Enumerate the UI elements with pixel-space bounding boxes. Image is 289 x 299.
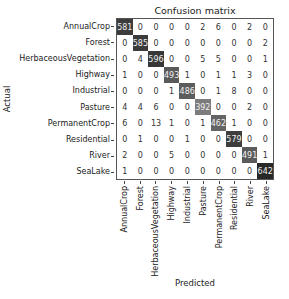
matrix-cell: 8	[226, 83, 242, 99]
matrix-cell: 1	[257, 51, 273, 67]
matrix-cell: 1	[117, 163, 133, 179]
matrix-cell: 0	[179, 99, 195, 115]
matrix-cell: 0	[226, 163, 242, 179]
matrix-cell: 0	[211, 131, 227, 147]
matrix-cell: 0	[257, 67, 273, 83]
matrix-cell: 4	[117, 99, 133, 115]
y-tick-label: Forest	[0, 34, 114, 50]
matrix-cell: 581	[117, 19, 133, 35]
matrix-cell: 6	[211, 19, 227, 35]
matrix-cell: 2	[117, 147, 133, 163]
matrix-cell: 491	[242, 147, 258, 163]
matrix-cell: 0	[195, 35, 211, 51]
matrix-cell: 0	[117, 83, 133, 99]
matrix-cell: 0	[179, 19, 195, 35]
matrix-cell: 0	[211, 163, 227, 179]
matrix-cell: 1	[195, 115, 211, 131]
matrix-cell: 0	[148, 147, 164, 163]
matrix-cell: 5	[164, 147, 180, 163]
x-tick-label: Forest	[132, 181, 148, 271]
x-tick-label: SeaLake	[258, 181, 274, 271]
matrix-cell: 596	[148, 51, 164, 67]
matrix-cell: 462	[211, 115, 227, 131]
x-tick-label: River	[242, 181, 258, 271]
matrix-cell: 0	[148, 19, 164, 35]
matrix-cell: 5	[211, 51, 227, 67]
matrix-cell: 0	[195, 83, 211, 99]
matrix-cell: 0	[242, 83, 258, 99]
matrix-cell: 0	[195, 163, 211, 179]
matrix-cell: 0	[195, 67, 211, 83]
matrix-cell: 0	[148, 131, 164, 147]
matrix-cell: 642	[257, 163, 273, 179]
y-tick-label: AnnualCrop	[0, 18, 114, 34]
matrix-cell: 0	[117, 51, 133, 67]
x-tick-label: AnnualCrop	[116, 181, 132, 271]
matrix-cell: 0	[179, 147, 195, 163]
matrix-cell: 0	[133, 19, 149, 35]
matrix-cell: 0	[164, 163, 180, 179]
matrix-cell: 0	[257, 19, 273, 35]
matrix-cell: 0	[179, 115, 195, 131]
matrix-cell: 1	[117, 67, 133, 83]
x-tick-label: PermanentCrop	[211, 181, 227, 271]
matrix-cell: 0	[133, 115, 149, 131]
matrix-cell: 486	[179, 83, 195, 99]
y-tick-label: River	[0, 148, 114, 164]
matrix-cell: 2	[257, 35, 273, 51]
matrix-cell: 2	[242, 99, 258, 115]
matrix-cell: 0	[257, 83, 273, 99]
matrix-cell: 0	[148, 35, 164, 51]
matrix-cell: 0	[179, 35, 195, 51]
matrix-cell: 0	[242, 131, 258, 147]
matrix-cell: 0	[133, 163, 149, 179]
matrix-cell: 1	[164, 83, 180, 99]
matrix-cell: 0	[257, 99, 273, 115]
matrix-cell: 0	[179, 51, 195, 67]
x-tick-label: HerbaceousVegetation	[148, 181, 164, 271]
matrix-cell: 585	[133, 35, 149, 51]
x-axis-label: Predicted	[116, 278, 274, 288]
matrix-cell: 0	[242, 163, 258, 179]
matrix-cell: 1	[226, 115, 242, 131]
confusion-matrix-grid: 5810000260200585000000020459600550011004…	[116, 18, 274, 180]
matrix-cell: 0	[164, 51, 180, 67]
matrix-cell: 0	[257, 131, 273, 147]
matrix-cell: 392	[195, 99, 211, 115]
y-tick-label: Highway	[0, 67, 114, 83]
matrix-cell: 0	[242, 35, 258, 51]
y-tick-label: Pasture	[0, 99, 114, 115]
matrix-cell: 1	[179, 131, 195, 147]
matrix-cell: 1	[179, 67, 195, 83]
matrix-cell: 0	[179, 163, 195, 179]
matrix-cell: 0	[117, 131, 133, 147]
matrix-cell: 1	[164, 115, 180, 131]
matrix-cell: 0	[211, 99, 227, 115]
matrix-cell: 579	[226, 131, 242, 147]
matrix-cell: 0	[226, 51, 242, 67]
x-tick-label: Industrial	[179, 181, 195, 271]
y-tick-label: Residential	[0, 131, 114, 147]
x-tick-label: Highway	[163, 181, 179, 271]
matrix-cell: 0	[164, 19, 180, 35]
matrix-cell: 1	[226, 67, 242, 83]
y-tick-label: Industrial	[0, 83, 114, 99]
matrix-cell: 4	[133, 51, 149, 67]
matrix-cell: 1	[211, 83, 227, 99]
y-tick-label: PermanentCrop	[0, 115, 114, 131]
matrix-cell: 0	[148, 163, 164, 179]
matrix-cell: 0	[211, 35, 227, 51]
y-tick-label: SeaLake	[0, 164, 114, 180]
y-axis-label: Actual	[2, 86, 12, 113]
matrix-cell: 1	[211, 67, 227, 83]
matrix-cell: 1	[257, 147, 273, 163]
matrix-cell: 0	[195, 131, 211, 147]
matrix-cell: 0	[242, 51, 258, 67]
matrix-cell: 0	[133, 67, 149, 83]
x-tick-label: Pasture	[195, 181, 211, 271]
y-tick-label: HerbaceousVegetation	[0, 50, 114, 66]
x-tick-labels: AnnualCropForestHerbaceousVegetationHigh…	[116, 181, 274, 271]
chart-title: Confusion matrix	[116, 5, 274, 16]
matrix-cell: 0	[117, 35, 133, 51]
matrix-cell: 0	[257, 115, 273, 131]
